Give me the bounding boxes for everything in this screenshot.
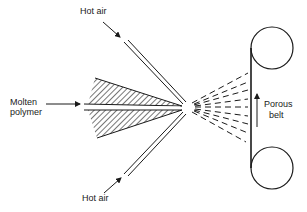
label-belt: belt <box>269 110 284 120</box>
label-polymer: polymer <box>10 107 42 117</box>
fiber-stream <box>192 73 248 142</box>
label-hot-air-bottom: Hot air <box>82 193 109 203</box>
label-molten: Molten <box>10 97 37 107</box>
diagram-drawing <box>0 0 307 212</box>
hot-air-arrow-bottom-icon <box>104 178 121 193</box>
top-roller <box>251 27 293 69</box>
melt-blowing-diagram: Hot air Hot air Molten polymer Porous be… <box>0 0 307 212</box>
label-porous: Porous <box>264 99 293 109</box>
hot-air-arrow-top-icon <box>103 22 120 37</box>
label-hot-air-top: Hot air <box>80 6 107 16</box>
bottom-roller <box>251 147 293 189</box>
